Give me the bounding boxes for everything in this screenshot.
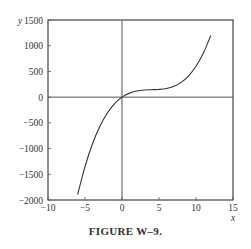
x-tick-label: 0 (120, 203, 125, 213)
x-tick-label: −5 (80, 203, 90, 213)
y-axis-ticks: 150010005000−500−1000−1500−2000 (19, 16, 51, 206)
y-tick-label: 1500 (24, 16, 43, 26)
plot-frame (48, 20, 233, 200)
y-tick-label: 0 (38, 93, 43, 103)
data-curve (78, 35, 211, 194)
x-tick-label: 5 (157, 203, 162, 213)
x-tick-label: 10 (191, 203, 201, 213)
x-tick-label: 15 (228, 203, 238, 213)
y-tick-label: −500 (23, 118, 43, 128)
chart-plot: −10−5051015 150010005000−500−1000−1500−2… (0, 0, 251, 249)
y-tick-label: −2000 (19, 196, 44, 206)
x-axis-label: x (230, 213, 236, 223)
y-tick-label: 1000 (24, 41, 43, 51)
figure-caption: FIGURE W–9. (0, 225, 251, 237)
zero-lines (48, 20, 233, 200)
y-axis-label: y (17, 16, 23, 26)
x-axis-ticks: −10−5051015 (41, 197, 238, 213)
y-tick-label: 500 (29, 67, 44, 77)
y-tick-label: −1000 (19, 144, 44, 154)
y-tick-label: −1500 (19, 170, 44, 180)
